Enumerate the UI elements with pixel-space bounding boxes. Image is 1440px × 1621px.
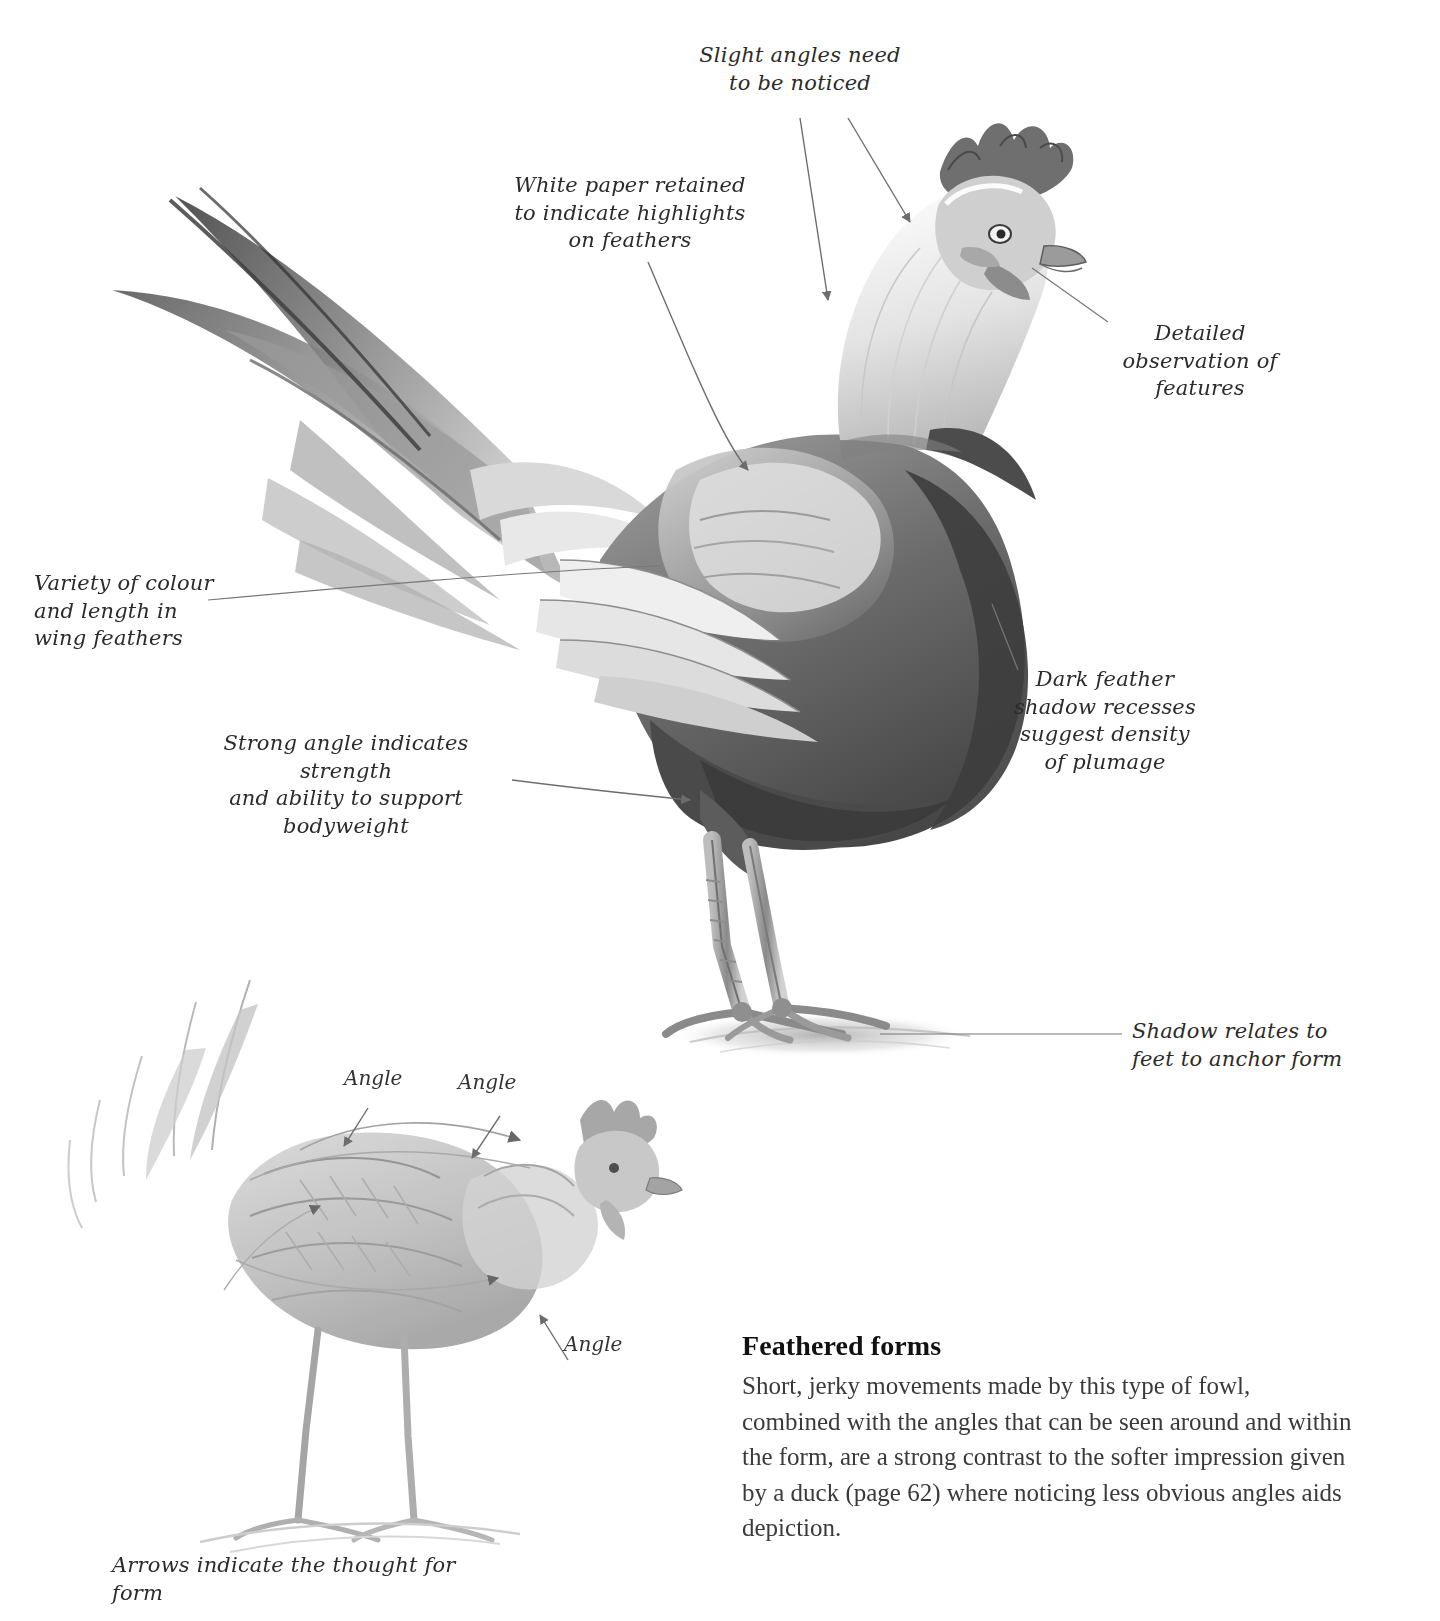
annotation-dark-feather: Dark feather shadow recesses suggest den… <box>1000 666 1210 777</box>
annotation-slight-angles: Slight angles need to be noticed <box>640 42 960 97</box>
leader-white-paper <box>648 262 748 470</box>
annotation-variety-colour: Variety of colour and length in wing fea… <box>34 570 264 653</box>
illustration-page: Slight angles need to be noticed White p… <box>0 0 1440 1621</box>
annotation-detailed-observation: Detailed observation of features <box>1100 320 1300 403</box>
leader-slight-angles-left <box>800 118 828 300</box>
rooster-body <box>536 435 1028 850</box>
caption-heading: Feathered forms <box>742 1330 1352 1362</box>
caption-block: Feathered forms Short, jerky movements m… <box>742 1330 1352 1546</box>
angle-label-2: Angle <box>458 1070 516 1094</box>
annotation-arrows-indicate: Arrows indicate the thought for form <box>112 1552 512 1607</box>
angle-label-1: Angle <box>344 1066 402 1090</box>
leader-detailed-observation <box>1032 268 1108 322</box>
leader-angle-1 <box>344 1108 368 1146</box>
caption-body: Short, jerky movements made by this type… <box>742 1368 1352 1546</box>
neck-hackles <box>838 187 1049 500</box>
annotation-strong-angle: Strong angle indicates strength and abil… <box>176 730 516 841</box>
leader-strong-angle <box>512 780 690 800</box>
rooster-head <box>935 123 1086 300</box>
legs-and-feet <box>666 790 886 1040</box>
annotation-shadow-relates: Shadow relates to feet to anchor form <box>1132 1018 1382 1073</box>
leader-variety-colour <box>208 566 660 600</box>
annotation-white-paper: White paper retained to indicate highlig… <box>490 172 770 255</box>
leader-slight-angles-right <box>848 118 910 222</box>
leader-angle-2 <box>472 1116 500 1158</box>
angle-label-3: Angle <box>564 1332 622 1356</box>
leader-dark-feather <box>992 604 1018 670</box>
